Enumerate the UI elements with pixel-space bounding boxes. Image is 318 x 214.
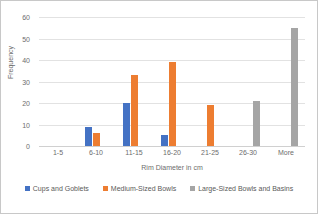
legend-item[interactable]: Medium-Sized Bowls [103,185,176,192]
x-axis-tick-label: 16-20 [153,149,191,156]
bars-layer [39,17,305,146]
bar-group-more [267,17,305,146]
chart-container: Frequency 0102030405060 1-56-1011-1516-2… [0,0,318,214]
bar[interactable] [291,28,298,146]
y-axis-tick-label: 60 [22,14,30,21]
y-axis-tick-labels: 0102030405060 [1,17,34,146]
legend-swatch-icon [25,186,30,191]
bar[interactable] [169,62,176,146]
chart-legend: Cups and GobletsMedium-Sized BowlsLarge-… [1,185,317,192]
legend-swatch-icon [103,186,108,191]
legend-item[interactable]: Large-Sized Bowls and Basins [190,185,293,192]
bar[interactable] [253,101,260,146]
x-axis-tick-label: 26-30 [229,149,267,156]
bar[interactable] [131,75,138,146]
bar-group-16-20 [153,17,191,146]
legend-label: Large-Sized Bowls and Basins [198,185,293,192]
legend-swatch-icon [190,186,195,191]
x-axis-tick-labels: 1-56-1011-1516-2021-2526-30More [39,149,305,156]
bar[interactable] [93,133,100,146]
gridline [39,146,305,147]
x-axis-title: Rim Diameter in cm [39,164,305,171]
bar[interactable] [207,105,214,146]
x-axis-tick-label: 21-25 [191,149,229,156]
bar-group-11-15 [115,17,153,146]
x-axis-tick-label: 1-5 [39,149,77,156]
bar-group-21-25 [191,17,229,146]
y-axis-tick-label: 20 [22,100,30,107]
bar[interactable] [161,135,168,146]
y-axis-tick-label: 50 [22,35,30,42]
x-axis-tick-label: 11-15 [115,149,153,156]
x-axis-tick-label: 6-10 [77,149,115,156]
bar[interactable] [85,127,92,146]
bar[interactable] [123,103,130,146]
y-axis-tick-label: 10 [22,121,30,128]
x-axis-tick-label: More [267,149,305,156]
y-axis-tick-label: 30 [22,78,30,85]
plot-area [39,17,305,146]
legend-label: Cups and Goblets [33,185,89,192]
y-axis-tick-label: 40 [22,57,30,64]
y-axis-tick-label: 0 [26,143,30,150]
legend-item[interactable]: Cups and Goblets [25,185,89,192]
bar-group-26-30 [229,17,267,146]
bar-group-1-5 [39,17,77,146]
bar-group-6-10 [77,17,115,146]
legend-label: Medium-Sized Bowls [111,185,176,192]
